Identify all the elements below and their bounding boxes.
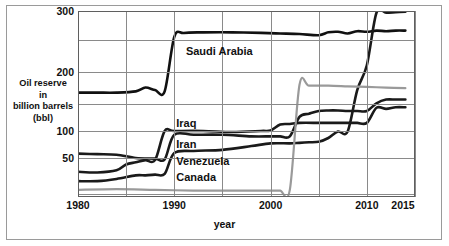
y-axis-tick-label: 300 (56, 5, 74, 17)
grid-line-vertical (415, 11, 416, 197)
x-axis-tick-labels: 19801990200020102015 (78, 199, 415, 215)
plot-area: Saudi ArabiaIraqIranVenezuelaCanada (78, 11, 415, 197)
x-axis-tick-label: 1990 (163, 199, 186, 211)
x-axis-tick-label: 1980 (66, 199, 89, 211)
y-axis-tick-label: 50 (62, 152, 74, 164)
x-axis-tick-label: 2010 (355, 199, 378, 211)
y-axis-tick-label: 200 (56, 66, 74, 78)
x-axis-title: year (0, 218, 449, 230)
y-axis-tick-labels: 30020010050 (40, 11, 74, 197)
x-axis-tick-label: 2015 (391, 199, 414, 211)
y-axis-tick-label: 100 (56, 125, 74, 137)
plot-border (78, 11, 415, 197)
x-axis-tick-label: 2000 (259, 199, 282, 211)
chart-screenshot: Oil reserve in billion barrels (bbl) 300… (0, 0, 449, 246)
